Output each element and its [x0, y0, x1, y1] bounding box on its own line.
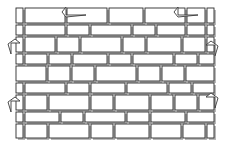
brick-block [16, 124, 23, 138]
brick-block [49, 95, 89, 110]
brick-block [193, 83, 214, 93]
brick-block [183, 37, 205, 52]
brick-block [169, 83, 191, 93]
brick-block [96, 66, 136, 81]
brick-block [48, 66, 70, 81]
brick-block [187, 112, 214, 122]
brick-block [73, 54, 107, 64]
brick-block [115, 124, 149, 138]
brick-block [175, 95, 197, 110]
brick-block [133, 25, 155, 35]
brick-block [175, 54, 197, 64]
brick-block [16, 37, 23, 52]
brick-block [49, 54, 71, 64]
brick-block [133, 54, 173, 64]
brick-block [91, 83, 125, 93]
brick-block [16, 112, 23, 122]
brick-block [91, 25, 131, 35]
brick-block [67, 25, 89, 35]
brick-block [147, 37, 181, 52]
masonry-wall-diagram [0, 0, 228, 151]
brick-block [25, 8, 65, 23]
brick-block [25, 95, 47, 110]
brick-block [57, 37, 79, 52]
brick-block [25, 112, 59, 122]
brick-block [115, 95, 149, 110]
brick-block [16, 54, 23, 64]
brick-block [162, 66, 184, 81]
brick-block [199, 54, 214, 64]
brick-block [127, 83, 167, 93]
brick-block [157, 25, 185, 35]
brick-block [138, 66, 160, 81]
brick-block [151, 124, 181, 138]
brick-block [25, 124, 47, 138]
brick-block [25, 25, 65, 35]
brick-block [151, 112, 185, 122]
brick-block [16, 95, 23, 110]
brick-block [67, 83, 89, 93]
brick-block [16, 25, 23, 35]
brick-block [16, 8, 23, 23]
brick-block [61, 112, 83, 122]
brick-block [151, 95, 173, 110]
brick-block [49, 124, 89, 138]
brick-block [187, 25, 205, 35]
brick-block [207, 25, 214, 35]
brick-block [186, 66, 214, 81]
brick-block [25, 37, 55, 52]
brick-block [72, 66, 94, 81]
brick-block [91, 124, 113, 138]
brick-block [127, 112, 149, 122]
brick-face-layer [16, 8, 214, 138]
brick-block [81, 37, 121, 52]
brick-block [109, 54, 131, 64]
brick-block [183, 124, 205, 138]
brick-block [25, 54, 47, 64]
brick-block [16, 66, 46, 81]
brick-block [109, 8, 143, 23]
brick-block [91, 95, 113, 110]
wall-elevation-drawing [0, 0, 228, 151]
brick-block [207, 8, 214, 23]
brick-block [16, 83, 23, 93]
brick-block [85, 112, 125, 122]
brick-block [25, 83, 65, 93]
brick-block [207, 124, 214, 138]
brick-block [123, 37, 145, 52]
